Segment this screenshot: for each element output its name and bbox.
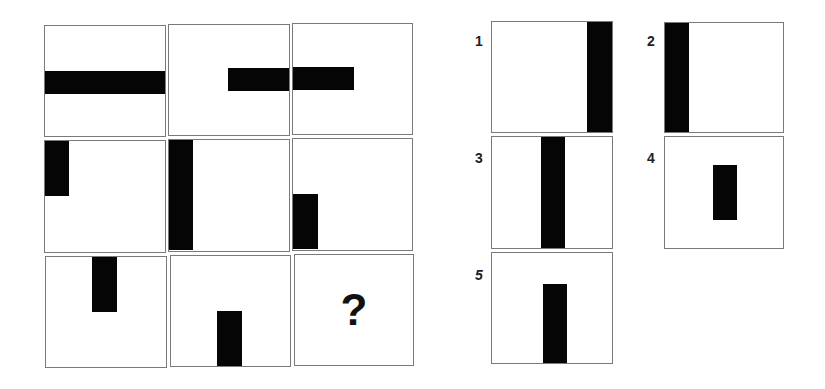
option-label-4: 4	[647, 150, 655, 166]
matrix-cell-r0-c2	[292, 23, 413, 135]
matrix-cell-r2-c0	[45, 256, 167, 368]
horizontal-bar	[45, 71, 165, 94]
question-mark: ?	[295, 255, 413, 365]
vertical-bar	[587, 22, 612, 132]
matrix-cell-r0-c0	[44, 25, 166, 137]
vertical-bar	[713, 165, 737, 220]
option-1[interactable]	[491, 21, 613, 133]
horizontal-bar	[228, 68, 289, 91]
vertical-bar	[92, 257, 117, 312]
vertical-bar	[543, 284, 567, 363]
option-label-2: 2	[647, 33, 655, 49]
matrix-cell-r1-c0	[44, 140, 166, 253]
option-label-5: 5	[475, 267, 483, 283]
vertical-bar	[45, 141, 69, 196]
vertical-bar	[293, 194, 318, 249]
option-label-1: 1	[475, 33, 483, 49]
matrix-cell-r2-c2-missing: ?	[294, 254, 414, 366]
matrix-cell-r1-c2	[292, 138, 413, 251]
horizontal-bar	[293, 67, 354, 90]
vertical-bar	[169, 140, 193, 250]
vertical-bar	[217, 311, 242, 366]
option-2[interactable]	[664, 22, 784, 133]
matrix-cell-r1-c1	[168, 139, 290, 252]
option-label-3: 3	[475, 150, 483, 166]
vertical-bar	[665, 23, 689, 132]
matrix-cell-r2-c1	[170, 255, 291, 367]
matrix-cell-r0-c1	[168, 24, 290, 136]
option-3[interactable]	[491, 136, 613, 249]
option-4[interactable]	[664, 136, 784, 249]
option-5[interactable]	[491, 252, 613, 364]
vertical-bar	[541, 137, 565, 248]
